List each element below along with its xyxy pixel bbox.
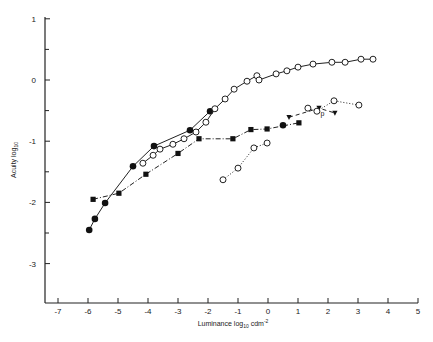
plot-area [86,56,376,233]
series-open-circles-solid [140,56,376,166]
y-tick-label: -2 [29,198,37,207]
marker-open-circle [193,129,199,135]
marker-open-circle [231,86,237,92]
y-axis-title: Acuity log10 [10,142,19,178]
marker-filled-circle [280,122,287,129]
marker-filled-square [230,136,235,141]
marker-open-circle [310,61,316,67]
series-filled-circle-single [280,122,287,129]
marker-open-circle [140,160,146,166]
marker-filled-circle [151,143,158,150]
x-tick-label: -3 [174,307,182,316]
annotation-p: p [321,110,325,118]
marker-filled-square [296,120,301,125]
marker-open-circle [251,145,257,151]
marker-open-circle [212,106,218,112]
x-tick-label: 5 [416,307,421,316]
series-triangles-dashed [286,106,337,120]
marker-open-circle [295,64,301,70]
marker-filled-square [248,127,253,132]
marker-open-circle [220,177,226,183]
x-tick-label: -1 [234,307,242,316]
marker-open-circle [157,146,163,152]
marker-open-circle [358,56,364,62]
marker-open-circle [331,98,337,104]
marker-open-circle [329,59,335,65]
x-tick-label: -6 [84,307,92,316]
marker-open-circle [314,108,320,114]
marker-open-circle [181,136,187,142]
marker-filled-circle [187,127,194,134]
marker-filled-circle [86,227,93,234]
marker-open-circle [150,152,156,158]
marker-open-circle [235,165,241,171]
y-tick-label: -3 [29,260,37,269]
x-tick-label: -4 [144,307,152,316]
marker-filled-circle [102,200,109,207]
marker-open-circle [284,68,290,74]
x-tick-label: -5 [114,307,122,316]
marker-open-circle [370,56,376,62]
marker-filled-triangle [332,111,337,116]
marker-filled-square [143,172,148,177]
marker-open-circle [244,78,250,84]
marker-open-circle [256,77,262,83]
marker-open-circle [203,119,209,125]
marker-filled-square [116,191,121,196]
x-tick-label: -7 [54,307,62,316]
y-tick-label: 1 [32,15,37,24]
marker-open-circle [264,140,270,146]
x-tick-label: 0 [266,307,271,316]
series-open-circles-dotted-lower [220,140,270,183]
x-tick-label: -2 [204,307,212,316]
marker-filled-square [91,197,96,202]
series-line [223,143,267,180]
marker-open-circle [170,141,176,147]
marker-open-circle [342,59,348,65]
series-line [289,108,335,117]
marker-filled-square [175,151,180,156]
marker-filled-square [265,126,270,131]
marker-open-circle [356,102,362,108]
marker-filled-circle [92,216,99,223]
acuity-luminance-chart: 10-1-2-3-7-6-5-4-3-2-1012345 Luminance l… [0,0,433,342]
marker-open-circle [222,96,228,102]
marker-filled-circle [130,163,137,170]
x-tick-label: 4 [386,307,391,316]
x-tick-label: 3 [356,307,361,316]
y-tick-label: -1 [29,137,37,146]
marker-filled-square [196,136,201,141]
marker-open-circle [305,105,311,111]
x-tick-label: 1 [296,307,301,316]
series-filled-circles-solid [86,108,214,233]
marker-filled-triangle [286,115,291,120]
y-tick-label: 0 [32,76,37,85]
marker-open-circle [273,71,279,77]
x-axis-title: Luminance log10 cdm-2 [198,318,269,329]
x-tick-label: 2 [326,307,331,316]
